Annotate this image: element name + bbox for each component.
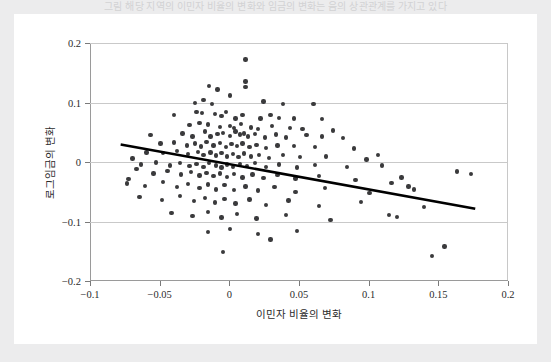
- scatter-point: [219, 215, 223, 219]
- scatter-point: [139, 162, 143, 166]
- x-tick-mark: [438, 281, 439, 286]
- scatter-point: [250, 172, 254, 176]
- scatter-point: [194, 162, 198, 166]
- scatter-point: [380, 163, 384, 167]
- scatter-point: [292, 116, 296, 120]
- scatter-point: [232, 188, 236, 192]
- scatter-point: [267, 156, 271, 160]
- scatter-point: [231, 152, 235, 156]
- gridline: [90, 103, 508, 104]
- scatter-point: [389, 181, 393, 185]
- scatter-point: [151, 171, 155, 175]
- scatter-point: [341, 136, 345, 140]
- scatter-point: [233, 116, 237, 120]
- scatter-point: [253, 132, 257, 136]
- scatter-point: [320, 117, 324, 121]
- scatter-point: [249, 154, 253, 158]
- scatter-point: [247, 197, 251, 201]
- scatter-point: [218, 171, 222, 175]
- scatter-point: [201, 165, 205, 169]
- scatter-point: [192, 199, 196, 203]
- scatter-point: [193, 101, 197, 105]
- y-tick-mark: [85, 222, 90, 223]
- plot-area: 0.20.10−0.1−0.2 −0.1−0.0500.050.10.150.2: [90, 43, 508, 281]
- scatter-point: [207, 161, 211, 165]
- scatter-point: [246, 134, 250, 138]
- scatter-point: [235, 212, 239, 216]
- x-tick-label: 0: [227, 289, 232, 300]
- scatter-point: [224, 110, 228, 114]
- scatter-point: [261, 99, 265, 103]
- scatter-point: [206, 122, 210, 126]
- scatter-point: [243, 79, 247, 83]
- scatter-point: [442, 244, 446, 248]
- scatter-point: [263, 135, 267, 139]
- scatter-point: [286, 198, 290, 202]
- scatter-point: [239, 122, 243, 126]
- scatter-point: [412, 187, 416, 191]
- scatter-point: [353, 178, 357, 182]
- scatter-point: [298, 155, 302, 159]
- scatter-point: [240, 141, 244, 145]
- scatter-point: [376, 153, 380, 157]
- scatter-point: [201, 153, 205, 157]
- x-tick-mark: [160, 281, 161, 286]
- scatter-point: [190, 214, 194, 218]
- scatter-point: [125, 181, 129, 185]
- scatter-point: [277, 116, 281, 120]
- x-tick-label: 0.05: [290, 289, 308, 300]
- scatter-point: [203, 196, 207, 200]
- scatter-point: [256, 232, 260, 236]
- figure-card: 로그임금의 변화 이민자 비율의 변화 0.20.10−0.1−0.2 −0.1…: [14, 14, 537, 344]
- scatter-point: [258, 116, 262, 120]
- scatter-point: [359, 200, 363, 204]
- scatter-point: [293, 176, 297, 180]
- scatter-point: [200, 111, 204, 115]
- scatter-point: [281, 153, 285, 157]
- plot-wrapper: 로그임금의 변화 이민자 비율의 변화 0.20.10−0.1−0.2 −0.1…: [14, 14, 537, 344]
- scatter-point: [201, 98, 205, 102]
- scatter-point: [228, 227, 232, 231]
- scatter-point: [165, 169, 169, 173]
- scatter-point: [235, 144, 239, 148]
- scatter-point: [154, 160, 158, 164]
- scatter-point: [190, 134, 194, 138]
- scatter-point: [187, 123, 191, 127]
- scatter-point: [180, 131, 184, 135]
- scatter-point: [169, 211, 173, 215]
- scatter-point: [175, 149, 179, 153]
- y-tick-label: 0: [76, 157, 81, 168]
- scatter-point: [313, 145, 317, 149]
- x-tick-label: 0.2: [501, 289, 514, 300]
- scatter-point: [284, 135, 288, 139]
- scatter-point: [222, 183, 226, 187]
- gridline: [90, 43, 508, 44]
- scatter-point: [272, 185, 276, 189]
- scatter-point: [240, 175, 244, 179]
- scatter-point: [245, 164, 249, 168]
- scatter-point: [277, 162, 281, 166]
- scatter-point: [469, 172, 473, 176]
- scatter-point: [210, 102, 214, 106]
- scatter-point: [387, 213, 391, 217]
- scatter-point: [187, 164, 191, 168]
- x-tick-mark: [229, 281, 230, 286]
- scatter-point: [264, 165, 268, 169]
- scatter-point: [158, 141, 162, 145]
- scatter-point: [134, 167, 138, 171]
- scatter-point: [222, 197, 226, 201]
- x-tick-label: 0.15: [429, 289, 447, 300]
- scatter-point: [225, 162, 229, 166]
- scatter-point: [254, 216, 258, 220]
- scatter-point: [203, 129, 207, 133]
- scatter-point: [219, 165, 223, 169]
- scatter-point: [261, 176, 265, 180]
- y-tick-mark: [85, 43, 90, 44]
- scatter-point: [317, 174, 321, 178]
- scatter-point: [232, 172, 236, 176]
- y-axis-label: 로그임금의 변화: [42, 43, 58, 281]
- scatter-point: [275, 173, 279, 177]
- scatter-point: [126, 177, 130, 181]
- scatter-point: [204, 171, 208, 175]
- scatter-point: [221, 131, 225, 135]
